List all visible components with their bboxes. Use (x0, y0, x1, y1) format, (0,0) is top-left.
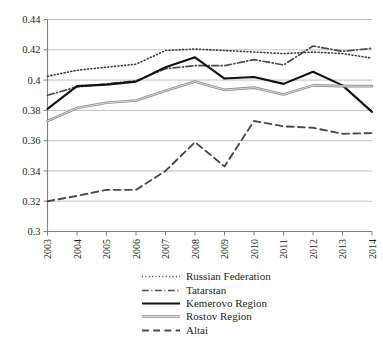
x-axis-tick-label: 2010 (249, 239, 260, 259)
legend-item[interactable]: Tatarstan (141, 283, 376, 296)
x-axis-tick-label: 2005 (101, 239, 112, 259)
y-axis-tick-label: 0.34 (22, 166, 41, 177)
legend-item[interactable]: Rostov Region (141, 310, 376, 323)
legend-swatch-icon (141, 324, 181, 337)
x-axis-tick-label: 2013 (337, 239, 348, 259)
x-axis-tick-label: 2004 (72, 239, 83, 259)
series-line (48, 46, 373, 95)
series-line (48, 49, 373, 76)
line-chart: 0.30.320.340.360.380.40.420.442003200420… (0, 0, 383, 338)
series-line-inner (48, 82, 373, 121)
series-line (48, 121, 373, 201)
plot-area: 0.30.320.340.360.380.40.420.442003200420… (0, 0, 383, 275)
legend-label: Kemerovo Region (181, 297, 267, 310)
y-axis-tick-label: 0.44 (22, 14, 41, 25)
legend-swatch-icon (141, 297, 181, 310)
series-line (48, 82, 373, 121)
x-axis-tick-label: 2009 (219, 239, 230, 259)
legend-swatch-icon (141, 310, 181, 323)
legend-item[interactable]: Russian Federation (141, 270, 376, 283)
y-axis-tick-label: 0.38 (22, 105, 40, 116)
x-axis-tick-label: 2014 (367, 239, 378, 259)
y-axis-tick-label: 0.36 (22, 135, 40, 146)
legend-swatch-icon (141, 284, 181, 297)
x-axis-tick-label: 2007 (160, 239, 171, 259)
legend-label: Russian Federation (181, 270, 271, 283)
y-axis-tick-label: 0.32 (22, 196, 40, 207)
legend-label: Altai (181, 324, 208, 337)
legend-item[interactable]: Altai (141, 324, 376, 337)
x-axis-tick-label: 2012 (308, 239, 319, 259)
y-axis-tick-label: 0.3 (27, 226, 40, 237)
x-axis-tick-label: 2011 (278, 239, 289, 259)
x-axis-tick-label: 2003 (42, 239, 53, 259)
legend-item[interactable]: Kemerovo Region (141, 297, 376, 310)
chart-legend: Russian FederationTatarstanKemerovo Regi… (141, 270, 376, 337)
x-axis-tick-label: 2008 (190, 239, 201, 259)
legend-label: Rostov Region (181, 310, 252, 323)
y-axis-tick-label: 0.42 (22, 44, 40, 55)
x-axis-tick-label: 2006 (131, 239, 142, 259)
legend-swatch-icon (141, 270, 181, 283)
legend-label: Tatarstan (181, 284, 226, 297)
plot-svg: 0.30.320.340.360.380.40.420.442003200420… (0, 0, 383, 275)
y-axis-tick-label: 0.4 (27, 75, 41, 86)
